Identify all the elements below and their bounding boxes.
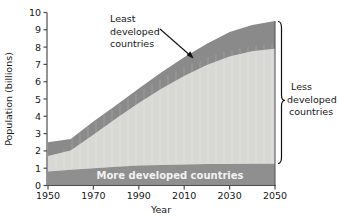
x-tick-1950: 1950 [36,190,60,201]
y-tick-3: 3 [35,128,41,139]
population-projection-chart: 10 9 8 7 6 5 4 3 2 1 0 [0,0,339,224]
y-tick-4: 4 [35,111,41,122]
least-developed-line-3: countries [110,38,154,49]
y-tick-5: 5 [35,94,41,105]
x-tick-1970: 1970 [81,190,105,201]
least-developed-line-2: developed [110,26,160,37]
less-developed-line-1: Less [291,81,312,92]
y-tick-8: 8 [35,42,41,53]
less-developed-line-2: developed [287,94,337,105]
y-axis-title: Population (billions) [3,52,14,146]
more-developed-band-label: More developed countries [96,170,243,181]
less-developed-line-3: countries [289,106,333,117]
x-tick-2030: 2030 [218,190,242,201]
y-tick-7: 7 [35,59,41,70]
y-tick-6: 6 [35,76,41,87]
y-tick-9: 9 [35,24,41,35]
y-tick-2: 2 [35,145,41,156]
least-developed-line-1: Least [110,13,136,24]
x-tick-2010: 2010 [172,190,196,201]
y-tick-10: 10 [29,7,41,18]
x-axis-title: Year [150,204,171,215]
x-tick-1990: 1990 [127,190,151,201]
x-tick-2050: 2050 [263,190,287,201]
y-tick-1: 1 [35,163,41,174]
